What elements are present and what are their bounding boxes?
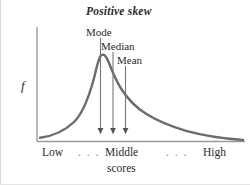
- x-tick-middle: Middle: [105, 147, 138, 159]
- chart-title: Positive skew: [86, 6, 152, 18]
- x-axis-sublabel: scores: [107, 163, 136, 175]
- x-tick-dots-left: . . .: [78, 147, 100, 159]
- median-label: Median: [101, 41, 135, 52]
- distribution-curve: [40, 55, 243, 140]
- x-tick-high: High: [203, 147, 226, 159]
- y-axis-label: f: [21, 79, 25, 92]
- mode-label: Mode: [86, 27, 112, 38]
- x-tick-dots-right: . . .: [166, 147, 188, 159]
- x-tick-low: Low: [42, 147, 63, 159]
- positive-skew-figure: Positive skew f Mode Median Mean Low . .…: [0, 0, 250, 185]
- mean-label: Mean: [117, 55, 142, 66]
